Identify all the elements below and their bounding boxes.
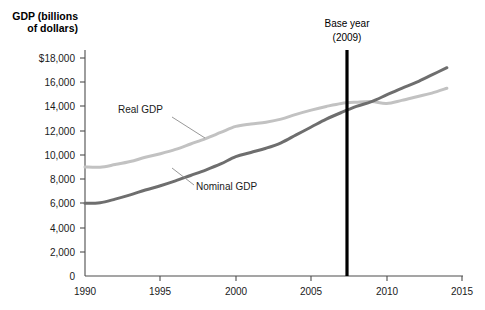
y-tick-label-14000: 14,000: [44, 101, 75, 112]
y-axis-ticks: [80, 58, 85, 252]
y-tick-label-8000: 8,000: [50, 174, 75, 185]
y-tick-label-10000: 10,000: [44, 150, 75, 161]
leader-line-real-gdp: [172, 117, 205, 138]
x-axis-ticks: [160, 276, 462, 281]
x-tick-label-1995: 1995: [149, 286, 172, 297]
y-tick-label-16000: 16,000: [44, 77, 75, 88]
x-tick-label-2005: 2005: [300, 286, 323, 297]
gdp-line-chart: GDP (billions of dollars) $18,000 16,000…: [0, 0, 485, 310]
x-tick-label-1990: 1990: [74, 286, 97, 297]
base-year-label-line2: (2009): [333, 32, 362, 43]
series-line-nominal-gdp: [85, 68, 447, 204]
x-tick-label-2010: 2010: [376, 286, 399, 297]
series-label-real-gdp: Real GDP: [118, 104, 163, 115]
y-tick-label-12000: 12,000: [44, 126, 75, 137]
x-tick-label-2000: 2000: [225, 286, 248, 297]
y-axis-title-line1: GDP (billions: [12, 10, 78, 22]
y-tick-label-2000: 2,000: [50, 247, 75, 258]
y-tick-label-18000: $18,000: [39, 53, 76, 64]
y-axis-title-line2: of dollars): [27, 22, 78, 34]
y-tick-label-6000: 6,000: [50, 198, 75, 209]
series-line-real-gdp: [85, 88, 447, 167]
chart-page: GDP (billions of dollars) $18,000 16,000…: [0, 0, 485, 310]
series-label-nominal-gdp: Nominal GDP: [196, 181, 257, 192]
x-tick-label-2015: 2015: [451, 286, 474, 297]
base-year-label-line1: Base year: [324, 18, 370, 29]
y-tick-label-4000: 4,000: [50, 223, 75, 234]
y-tick-label-0: 0: [69, 271, 75, 282]
